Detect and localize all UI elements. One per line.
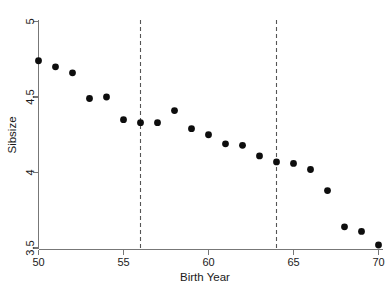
- data-point: [358, 228, 365, 235]
- x-axis-title: Birth Year: [180, 271, 230, 283]
- data-point: [86, 95, 93, 102]
- data-point: [35, 57, 42, 64]
- x-tick-label-70: 70: [372, 256, 384, 268]
- x-tick-label-60: 60: [202, 256, 214, 268]
- x-tick-label-55: 55: [117, 256, 129, 268]
- data-point: [324, 187, 331, 194]
- data-point: [137, 119, 144, 126]
- data-point: [205, 131, 212, 138]
- x-tick-label-65: 65: [287, 256, 299, 268]
- data-point: [69, 69, 76, 76]
- data-point: [188, 125, 195, 132]
- data-point: [239, 142, 246, 149]
- data-point: [290, 160, 297, 167]
- y-tick-label-4p5: 4.5: [24, 89, 36, 104]
- data-point: [154, 119, 161, 126]
- data-point: [375, 242, 382, 249]
- y-tick-label-4: 4: [24, 169, 36, 175]
- y-tick-label-3p5: 3.5: [24, 240, 36, 255]
- data-point: [222, 140, 229, 147]
- x-tick-label-50: 50: [32, 256, 44, 268]
- y-axis-title: Sibsize: [6, 116, 18, 153]
- chart-canvas: 5 4.5 4 3.5 Sibsize 50 55 60 65 70 Birth…: [0, 0, 385, 288]
- y-tick-label-5: 5: [24, 18, 36, 24]
- data-point: [103, 94, 110, 101]
- data-point-group: [35, 57, 382, 248]
- data-point: [256, 152, 263, 159]
- data-point: [171, 107, 178, 114]
- data-point: [120, 116, 127, 123]
- y-axis: 5 4.5 4 3.5 Sibsize: [6, 18, 39, 255]
- scatter-chart-figure: 5 4.5 4 3.5 Sibsize 50 55 60 65 70 Birth…: [0, 0, 385, 288]
- data-point: [52, 63, 59, 70]
- data-point: [307, 166, 314, 173]
- data-point: [273, 159, 280, 166]
- data-point: [341, 223, 348, 230]
- x-axis: 50 55 60 65 70 Birth Year: [32, 250, 384, 284]
